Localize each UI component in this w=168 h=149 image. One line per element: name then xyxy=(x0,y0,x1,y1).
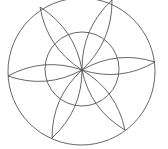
petal-group xyxy=(8,0,155,138)
rosette-diagram xyxy=(0,0,168,149)
petal-bottom-right xyxy=(82,70,125,130)
petal-bottom-left xyxy=(52,70,82,138)
outer-circle xyxy=(8,0,155,145)
